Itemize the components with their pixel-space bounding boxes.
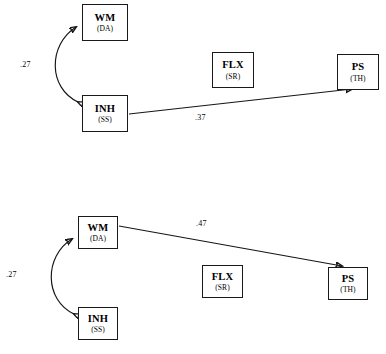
- node-inh-top: INH (SS): [82, 95, 128, 132]
- node-wm-top-subtitle: (DA): [97, 25, 113, 33]
- edge-label-inh-ps-path: .37: [195, 113, 206, 122]
- node-inh-bottom: INH (SS): [78, 307, 118, 340]
- node-ps-top-subtitle: (TH): [350, 75, 365, 83]
- node-flx-top-title: FLX: [222, 60, 244, 71]
- node-flx-bottom-subtitle: (SR): [215, 284, 230, 292]
- node-inh-top-title: INH: [95, 104, 115, 115]
- node-inh-top-subtitle: (SS): [98, 116, 112, 124]
- edge-layer: [0, 0, 386, 354]
- node-inh-bottom-subtitle: (SS): [91, 326, 105, 334]
- node-ps-bottom-title: PS: [342, 274, 355, 285]
- edge-inh-ps-path: [129, 89, 352, 114]
- edge-label-wm-inh-covariance: .27: [20, 60, 31, 69]
- node-wm-bottom-subtitle: (DA): [90, 235, 106, 243]
- node-wm-bottom: WM (DA): [78, 216, 118, 249]
- node-ps-top: PS (TH): [337, 54, 379, 90]
- path-diagram-figure: WM (DA) INH (SS) FLX (SR) PS (TH) .27 .3…: [0, 0, 386, 354]
- node-flx-top: FLX (SR): [212, 52, 254, 88]
- node-flx-bottom: FLX (SR): [202, 265, 243, 298]
- node-wm-top-title: WM: [95, 13, 116, 24]
- node-flx-bottom-title: FLX: [212, 272, 234, 283]
- edge-label-wm-ps-path: .47: [196, 219, 207, 228]
- edge-wm-ps-path: [119, 226, 342, 266]
- edge-wm-inh-covariance-2: [51, 239, 74, 314]
- node-ps-bottom: PS (TH): [328, 267, 368, 300]
- edge-wm-inh-covariance: [55, 27, 78, 102]
- node-ps-top-title: PS: [352, 62, 365, 73]
- node-wm-bottom-title: WM: [88, 223, 109, 234]
- edge-label-wm-inh-covariance-2: .27: [6, 270, 17, 279]
- node-wm-top: WM (DA): [82, 4, 128, 41]
- node-flx-top-subtitle: (SR): [226, 73, 241, 81]
- node-ps-bottom-subtitle: (TH): [340, 286, 355, 294]
- node-inh-bottom-title: INH: [88, 314, 108, 325]
